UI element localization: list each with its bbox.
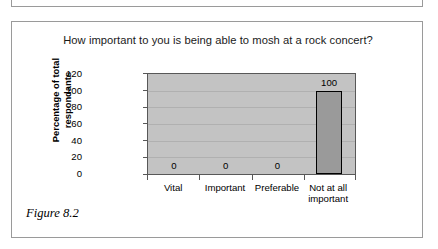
y-tick-label-100: 100: [54, 86, 82, 96]
x-tick-0: [147, 175, 148, 180]
x-label-preferable-line-1: Preferable: [247, 182, 307, 193]
bar-group-important[interactable]: 0: [200, 74, 252, 174]
y-tick-label-0: 0: [54, 169, 82, 179]
x-tick-4: [355, 175, 356, 180]
figure-caption: Figure 8.2: [26, 206, 79, 221]
x-label-preferable: Preferable: [247, 182, 307, 193]
bar-not-at-all-important[interactable]: [316, 91, 342, 174]
y-tick-label-80: 80: [54, 102, 82, 112]
x-label-not-at-all-important-line-2: important: [302, 193, 354, 204]
x-tick-1: [199, 175, 200, 180]
x-tick-2: [252, 175, 253, 180]
x-axis-labels: Vital Important Preferable Not at all im…: [147, 182, 356, 208]
x-axis-ticks: [147, 175, 356, 180]
y-tick-label-60: 60: [54, 119, 82, 129]
preceding-figure-box: [11, 0, 423, 7]
x-label-important-line-1: Important: [195, 182, 255, 193]
bar-group-preferable[interactable]: 0: [252, 74, 304, 174]
y-tick-label-20: 20: [54, 152, 82, 162]
bar-value-important: 0: [223, 161, 228, 171]
bars-layer: 0 0 0 100: [148, 74, 355, 174]
bar-group-not-at-all-important[interactable]: 100: [303, 74, 355, 174]
y-tick-label-120: 120: [54, 69, 82, 79]
bar-value-vital: 0: [171, 161, 176, 171]
x-label-not-at-all-important-line-1: Not at all: [302, 182, 354, 193]
y-tick-label-40: 40: [54, 136, 82, 146]
bar-value-not-at-all-important: 100: [321, 78, 337, 88]
x-tick-3: [304, 175, 305, 180]
x-label-vital: Vital: [147, 182, 199, 193]
x-label-vital-line-1: Vital: [147, 182, 199, 193]
x-label-not-at-all-important: Not at all important: [302, 182, 354, 204]
figure-container: How important to you is being able to mo…: [11, 21, 423, 238]
x-label-important: Important: [195, 182, 255, 193]
bar-value-preferable: 0: [275, 161, 280, 171]
bar-group-vital[interactable]: 0: [148, 74, 200, 174]
